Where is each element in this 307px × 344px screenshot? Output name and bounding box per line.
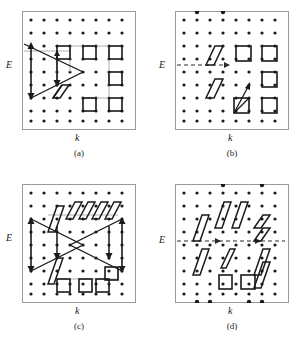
panel-b-frame	[176, 12, 289, 130]
panel-d-y-label: E	[159, 234, 165, 245]
panel-b: E k (b)	[175, 11, 289, 130]
panel-b-svg	[175, 11, 289, 130]
panel-c-x-label: k	[75, 305, 79, 316]
panel-d: E k (d)	[175, 184, 289, 303]
panel-a-svg	[22, 11, 136, 130]
panel-d-svg	[175, 184, 289, 303]
panel-a-caption: (a)	[64, 148, 94, 158]
panel-d-x-label: k	[228, 305, 232, 316]
panel-a-y-label: E	[6, 59, 12, 70]
panel-c-caption: (c)	[64, 321, 94, 331]
panel-a-x-label: k	[75, 132, 79, 143]
figure-root: E k (a)	[0, 0, 307, 344]
panel-b-caption: (b)	[217, 148, 247, 158]
panel-c: E k (c)	[22, 184, 136, 303]
panel-a: E k (a)	[22, 11, 136, 130]
panel-b-x-label: k	[228, 132, 232, 143]
panel-c-y-label: E	[6, 232, 12, 243]
panel-c-svg	[22, 184, 136, 303]
panel-d-caption: (d)	[217, 321, 247, 331]
panel-b-y-label: E	[159, 59, 165, 70]
